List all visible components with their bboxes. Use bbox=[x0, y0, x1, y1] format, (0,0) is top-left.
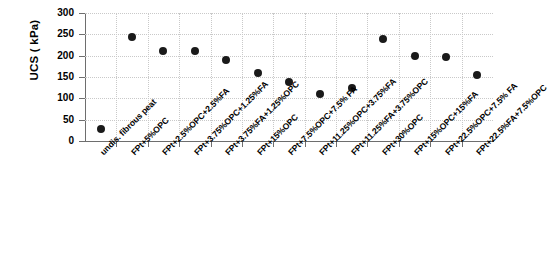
data-point bbox=[411, 52, 419, 60]
gridline bbox=[85, 34, 493, 35]
y-tick-label-wrap: 250 bbox=[48, 29, 74, 39]
y-tick-label-wrap: 0 bbox=[48, 136, 74, 146]
gridline bbox=[336, 13, 337, 141]
data-point bbox=[316, 90, 324, 98]
data-point bbox=[191, 47, 199, 55]
y-tick-label: 300 bbox=[48, 8, 74, 18]
y-tick-label-wrap: 200 bbox=[48, 51, 74, 61]
gridline bbox=[273, 13, 274, 141]
gridline bbox=[367, 13, 368, 141]
data-point bbox=[442, 53, 450, 61]
gridline bbox=[85, 98, 493, 99]
y-tick-label: 50 bbox=[48, 115, 74, 125]
gridline bbox=[430, 13, 431, 141]
y-tick-label: 200 bbox=[48, 51, 74, 61]
gridline bbox=[399, 13, 400, 141]
data-point bbox=[254, 69, 262, 77]
gridline bbox=[242, 13, 243, 141]
gridline bbox=[305, 13, 306, 141]
data-point bbox=[97, 125, 105, 133]
y-tick-label-wrap: 50 bbox=[48, 115, 74, 125]
gridline bbox=[85, 56, 493, 57]
data-point bbox=[128, 33, 136, 41]
y-tick-label: 100 bbox=[48, 93, 74, 103]
gridline bbox=[85, 13, 493, 14]
y-tick-label: 150 bbox=[48, 72, 74, 82]
y-tick-mark bbox=[79, 141, 85, 142]
data-point bbox=[379, 35, 387, 43]
gridline bbox=[116, 13, 117, 141]
y-axis-title: UCS ( kPa) bbox=[28, 0, 40, 110]
gridline bbox=[462, 13, 463, 141]
gridline bbox=[211, 13, 212, 141]
gridline bbox=[148, 13, 149, 141]
y-tick-label-wrap: 100 bbox=[48, 93, 74, 103]
y-tick-label-wrap: 300 bbox=[48, 8, 74, 18]
y-tick-label: 250 bbox=[48, 29, 74, 39]
gridline bbox=[179, 13, 180, 141]
y-tick-label: 0 bbox=[48, 136, 74, 146]
y-tick-label-wrap: 150 bbox=[48, 72, 74, 82]
data-point bbox=[222, 56, 230, 64]
data-point bbox=[159, 47, 167, 55]
